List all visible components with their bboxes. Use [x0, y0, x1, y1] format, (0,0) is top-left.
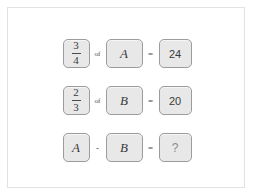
- fraction-denominator: 4: [73, 55, 79, 67]
- variable-label: A: [72, 140, 80, 156]
- fraction-numerator: 2: [73, 87, 79, 99]
- operator-equals-1: =: [143, 49, 159, 59]
- answer-placeholder: ?: [172, 141, 179, 155]
- result-value: 20: [169, 95, 181, 107]
- fraction-box-1[interactable]: 3 4: [63, 39, 90, 68]
- result-box-2[interactable]: 20: [159, 86, 192, 115]
- operator-equals-2: =: [143, 96, 159, 106]
- variable-box-b-2[interactable]: B: [106, 86, 143, 115]
- variable-box-a-3[interactable]: A: [63, 133, 90, 162]
- fraction-2: 2 3: [72, 87, 81, 113]
- equation-row-2: 2 3 of B = 20: [63, 86, 192, 115]
- variable-box-a-1[interactable]: A: [106, 39, 143, 68]
- equation-row-3: A - B = ?: [63, 133, 192, 162]
- fraction-box-2[interactable]: 2 3: [63, 86, 90, 115]
- answer-box-3[interactable]: ?: [159, 133, 192, 162]
- operator-of-2: of: [90, 97, 106, 105]
- equation-list: 3 4 of A = 24 2: [8, 8, 246, 189]
- puzzle-canvas: 3 4 of A = 24 2: [0, 0, 253, 195]
- variable-box-b-3[interactable]: B: [106, 133, 143, 162]
- fraction-denominator: 3: [73, 102, 79, 114]
- fraction-numerator: 3: [73, 40, 79, 52]
- operator-of-1: of: [90, 50, 106, 58]
- equation-row-1: 3 4 of A = 24: [63, 39, 192, 68]
- fraction-1: 3 4: [72, 40, 81, 66]
- result-box-1[interactable]: 24: [159, 39, 192, 68]
- variable-label: B: [120, 140, 128, 156]
- puzzle-panel: 3 4 of A = 24 2: [7, 7, 245, 188]
- operator-subtract-3: -: [90, 143, 106, 153]
- variable-label: A: [120, 46, 128, 62]
- result-value: 24: [169, 48, 181, 60]
- operator-equals-3: =: [143, 143, 159, 153]
- variable-label: B: [120, 93, 128, 109]
